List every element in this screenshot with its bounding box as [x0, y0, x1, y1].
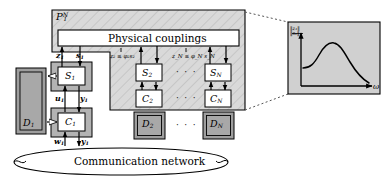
- signal-label-w1: w1: [54, 138, 64, 146]
- controller-N-label: CN: [210, 94, 222, 105]
- subsystem-2-label: S2: [142, 68, 152, 79]
- inset-ylabel: ‖z₁‖ ‖s₁‖: [290, 26, 300, 36]
- figure-canvas: PN1 Physical couplings z1 s1 z₂ ≤ φ₂s₂ z…: [0, 0, 388, 180]
- condition-label-2: z₂ ≤ φ₂s₂: [110, 54, 135, 60]
- callout-dotted-lines: [245, 12, 288, 110]
- communication-network-label: Communication network: [74, 156, 205, 167]
- signal-label-z1: z1: [56, 52, 64, 60]
- signal-label-u1: u1: [55, 95, 64, 103]
- disturbance-1-label: D1: [23, 118, 34, 129]
- controller-1-label: C1: [65, 117, 76, 128]
- disturbance-N-label: DN: [210, 119, 223, 130]
- plant-label: PN1: [56, 12, 67, 23]
- signal-label-y1: y1: [80, 95, 88, 103]
- ellipsis-subsystems: · · ·: [176, 68, 197, 77]
- signal-label-y1-out: y1: [81, 138, 89, 146]
- condition-label-N: z_N ≤ φ_N s_N: [172, 54, 215, 60]
- inset-xlabel: ω: [373, 83, 379, 91]
- subsystem-1-label: S1: [65, 71, 75, 82]
- subsystem-N-label: SN: [210, 68, 222, 79]
- signal-label-s1: s1: [76, 52, 84, 60]
- diagram-vector-layer: [0, 0, 388, 180]
- controller-2-label: C2: [142, 94, 153, 105]
- ellipsis-controllers: · · ·: [176, 94, 197, 103]
- physical-couplings-label: Physical couplings: [108, 33, 207, 44]
- inset-plot: [288, 22, 380, 94]
- disturbance-2-label: D2: [142, 119, 153, 130]
- ellipsis-disturbances: · · ·: [176, 121, 197, 130]
